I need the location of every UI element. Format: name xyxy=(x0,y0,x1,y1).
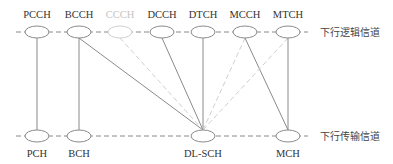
node-label: MCH xyxy=(276,148,300,159)
node-label: PCH xyxy=(27,148,48,159)
channel-mapping-diagram: PCCHBCCHCCCHDCCHDTCHMCCHMTCH PCHBCHDL-SC… xyxy=(0,0,393,164)
node-mcch: MCCH xyxy=(230,9,261,38)
node-ccch: CCCH xyxy=(106,9,135,38)
node-mtch: MTCH xyxy=(273,9,304,38)
edge-mcch-to-dl-sch xyxy=(203,38,245,130)
node-label: BCCH xyxy=(65,9,94,20)
node-dtch: DTCH xyxy=(189,9,218,38)
node-ellipse xyxy=(25,130,49,142)
node-ellipse xyxy=(108,26,132,38)
node-ellipse xyxy=(191,130,215,142)
node-dl-sch: DL-SCH xyxy=(184,130,222,159)
downlink-transport-channels-label: 下行传输信道 xyxy=(320,130,380,142)
logical-channel-nodes: PCCHBCCHCCCHDCCHDTCHMCCHMTCH xyxy=(23,9,303,38)
row-dashed-lines xyxy=(16,32,308,136)
node-label: DL-SCH xyxy=(184,148,222,159)
node-ellipse xyxy=(276,26,300,38)
node-mch: MCH xyxy=(276,130,300,159)
node-dcch: DCCH xyxy=(147,9,177,38)
edge-mtch-to-dl-sch xyxy=(203,38,288,130)
node-label: PCCH xyxy=(23,9,51,20)
node-label: DTCH xyxy=(189,9,218,20)
node-label: DCCH xyxy=(147,9,177,20)
node-ellipse xyxy=(67,130,91,142)
node-bcch: BCCH xyxy=(65,9,94,38)
node-ellipse xyxy=(150,26,174,38)
node-pch: PCH xyxy=(25,130,49,159)
node-label: CCCH xyxy=(106,9,135,20)
edge-bcch-to-dl-sch xyxy=(79,38,203,130)
node-bch: BCH xyxy=(67,130,91,159)
edge-ccch-to-dl-sch xyxy=(120,38,203,130)
node-pcch: PCCH xyxy=(23,9,51,38)
edge-mcch-to-mch xyxy=(245,38,288,130)
node-ellipse xyxy=(25,26,49,38)
transport-channel-nodes: PCHBCHDL-SCHMCH xyxy=(25,130,300,159)
downlink-logical-channels-label: 下行逻辑信道 xyxy=(320,26,380,38)
mapping-edges xyxy=(37,38,288,130)
edge-dcch-to-dl-sch xyxy=(162,38,203,130)
node-ellipse xyxy=(276,130,300,142)
node-label: BCH xyxy=(68,148,90,159)
node-ellipse xyxy=(191,26,215,38)
node-label: MCCH xyxy=(230,9,261,20)
node-label: MTCH xyxy=(273,9,304,20)
node-ellipse xyxy=(233,26,257,38)
node-ellipse xyxy=(67,26,91,38)
